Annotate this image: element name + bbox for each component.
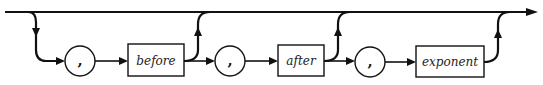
right-arrow-icon [346, 57, 355, 65]
syntax-diagram: , before , after , exponent [0, 0, 543, 85]
up-arrow-icon [494, 29, 502, 38]
exit-branch-2 [324, 12, 350, 61]
entry-branch [28, 12, 62, 61]
nonterminal-before-label: before [136, 54, 175, 68]
right-arrow-icon [56, 57, 65, 65]
right-arrow-icon [269, 57, 278, 65]
terminal-comma-1-label: , [77, 51, 82, 69]
up-arrow-icon [194, 27, 202, 36]
right-arrow-icon [119, 57, 128, 65]
up-arrow-icon [334, 27, 342, 36]
nonterminal-after-label: after [286, 54, 317, 68]
terminal-comma-2-label: , [227, 51, 232, 69]
right-arrow-icon [206, 57, 215, 65]
exit-branch-1 [184, 12, 210, 61]
terminal-comma-3-label: , [367, 52, 372, 70]
down-arrow-icon [32, 28, 40, 37]
exit-arrow-icon [526, 8, 538, 16]
nonterminal-exponent-label: exponent [422, 55, 478, 69]
right-arrow-icon [407, 58, 416, 66]
